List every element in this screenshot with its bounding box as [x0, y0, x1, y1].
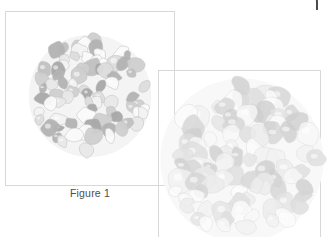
cell-highlight [279, 213, 287, 218]
cell-cluster-2-svg [162, 76, 322, 237]
cell-shape [111, 111, 123, 122]
cell-highlight [228, 119, 236, 124]
cell-highlight [37, 117, 40, 120]
cell-highlight [174, 173, 183, 180]
cell-highlight [232, 153, 238, 157]
cell-highlight [101, 60, 104, 62]
screenshot-canvas: Figure 1 [0, 0, 328, 237]
cell-highlight [217, 206, 225, 213]
cell-highlight [241, 109, 249, 115]
cell-highlight [280, 164, 288, 169]
cell-highlight [53, 65, 58, 69]
cell-highlight [134, 109, 138, 112]
cell-highlight [258, 165, 266, 171]
cell-highlight [282, 127, 290, 132]
cell-highlight [128, 71, 132, 73]
cell-highlight [311, 154, 318, 159]
figure-1-caption: Figure 1 [5, 187, 175, 199]
cell-highlight [96, 51, 100, 54]
cell-highlight [194, 216, 199, 220]
cell-highlight [108, 80, 113, 83]
cell-highlight [178, 163, 185, 167]
cell-highlight [54, 135, 58, 138]
cell-highlight [128, 105, 133, 108]
cell-highlight [54, 116, 60, 119]
cell-highlight [59, 139, 63, 142]
cell-highlight [74, 72, 80, 77]
window-top-edge [0, 0, 318, 10]
cell-highlight [84, 90, 88, 93]
cell-highlight [269, 130, 277, 135]
cell-highlight [280, 197, 287, 203]
cell-highlight [219, 102, 226, 106]
cell-highlight [45, 123, 51, 128]
cell-highlight [40, 65, 45, 69]
cell-highlight [110, 58, 116, 64]
cell-highlight [234, 189, 240, 193]
cell-shape [127, 69, 136, 78]
cell-highlight [190, 177, 198, 183]
cell-highlight [70, 81, 73, 83]
cell-highlight [220, 221, 225, 225]
cell-cluster-micrograph-1 [28, 34, 152, 158]
cell-cluster-micrograph-2 [162, 76, 322, 237]
cell-highlight [40, 86, 44, 88]
cell-cluster-1-svg [28, 34, 152, 158]
cell-highlight [302, 127, 311, 134]
cell-highlight [268, 217, 273, 221]
cell-highlight [116, 50, 122, 53]
cell-highlight [235, 206, 243, 213]
